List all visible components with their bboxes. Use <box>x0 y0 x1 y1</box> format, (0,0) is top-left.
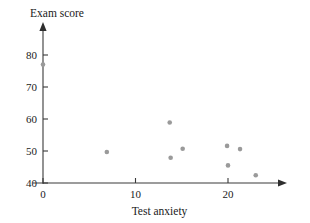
x-axis-title: Test anxiety <box>132 205 188 218</box>
y-tick-label: 80 <box>26 49 38 61</box>
plot-canvas: 4050607080 Exam score 01020 Test anxiety <box>0 0 310 223</box>
y-tick-label: 70 <box>26 81 38 93</box>
data-point <box>41 62 46 67</box>
x-tick-label: 0 <box>40 188 46 200</box>
x-tick-label: 20 <box>223 188 235 200</box>
x-tick-label: 10 <box>130 188 142 200</box>
data-point <box>226 163 231 168</box>
y-axis-arrow-icon <box>39 22 46 31</box>
data-point <box>253 173 258 178</box>
data-point <box>105 150 110 155</box>
data-point <box>180 146 185 151</box>
y-axis-title: Exam score <box>30 7 84 19</box>
y-axis-group: 4050607080 Exam score <box>26 7 84 189</box>
scatter-plot-figure: 4050607080 Exam score 01020 Test anxiety <box>0 0 310 223</box>
x-axis-group: 01020 Test anxiety <box>33 178 287 218</box>
data-point <box>168 155 173 160</box>
data-point <box>167 120 172 125</box>
x-axis-ticks: 01020 <box>40 178 234 200</box>
data-point <box>238 147 243 152</box>
data-points-group <box>41 62 258 177</box>
y-tick-label: 60 <box>26 113 38 125</box>
x-axis-arrow-icon <box>278 179 287 186</box>
data-point <box>225 144 230 149</box>
y-tick-label: 50 <box>26 145 38 157</box>
y-axis-ticks: 4050607080 <box>26 49 48 189</box>
